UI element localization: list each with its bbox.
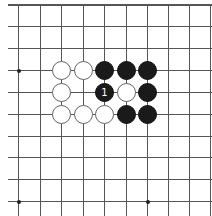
grid-line-vertical (189, 4, 190, 216)
grid-line-vertical (40, 4, 41, 216)
white-stone[interactable] (74, 61, 93, 80)
black-stone[interactable] (117, 61, 136, 80)
star-point (146, 200, 150, 204)
white-stone[interactable] (95, 105, 114, 124)
white-stone[interactable] (52, 61, 71, 80)
white-stone[interactable] (52, 83, 71, 102)
grid-line-horizontal (8, 48, 212, 49)
grid-line-vertical (168, 4, 169, 216)
board-top-edge (8, 4, 212, 6)
black-stone[interactable] (117, 105, 136, 124)
black-stone[interactable]: 1 (95, 83, 114, 102)
grid-line-horizontal (8, 201, 212, 202)
move-number-label: 1 (101, 88, 107, 98)
star-point (17, 69, 21, 73)
black-stone[interactable] (95, 61, 114, 80)
grid-line-horizontal (8, 26, 212, 27)
grid-line-horizontal (8, 157, 212, 158)
grid-line-horizontal (8, 136, 212, 137)
grid-line-vertical (210, 4, 211, 216)
white-stone[interactable] (74, 105, 93, 124)
black-stone[interactable] (138, 83, 157, 102)
grid-line-horizontal (8, 179, 212, 180)
star-point (17, 200, 21, 204)
grid-line-vertical (18, 4, 19, 216)
go-board: 1 (0, 0, 212, 216)
black-stone[interactable] (138, 61, 157, 80)
white-stone[interactable] (52, 105, 71, 124)
white-stone[interactable] (117, 83, 136, 102)
black-stone[interactable] (138, 105, 157, 124)
